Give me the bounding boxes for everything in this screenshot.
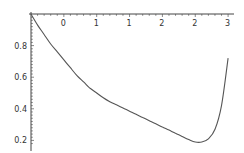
line-chart: 011223 0.80.60.40.2	[0, 0, 244, 153]
x-tick-label: 0	[61, 19, 66, 28]
x-tick-label: 1	[94, 19, 99, 28]
y-axis	[31, 12, 34, 151]
series-line	[31, 14, 228, 142]
plot-series	[31, 14, 228, 142]
y-tick-label: 0.4	[14, 105, 27, 114]
y-tick-label: 0.2	[14, 136, 27, 145]
y-tick-label: 0.6	[14, 73, 27, 82]
y-tick-labels: 0.80.60.40.2	[14, 42, 27, 146]
x-tick-label: 2	[159, 19, 164, 28]
x-tick-labels: 011223	[61, 19, 230, 28]
x-axis	[29, 14, 234, 17]
y-tick-label: 0.8	[14, 42, 27, 51]
x-tick-label: 3	[225, 19, 230, 28]
x-tick-label: 2	[192, 19, 197, 28]
x-tick-label: 1	[127, 19, 132, 28]
